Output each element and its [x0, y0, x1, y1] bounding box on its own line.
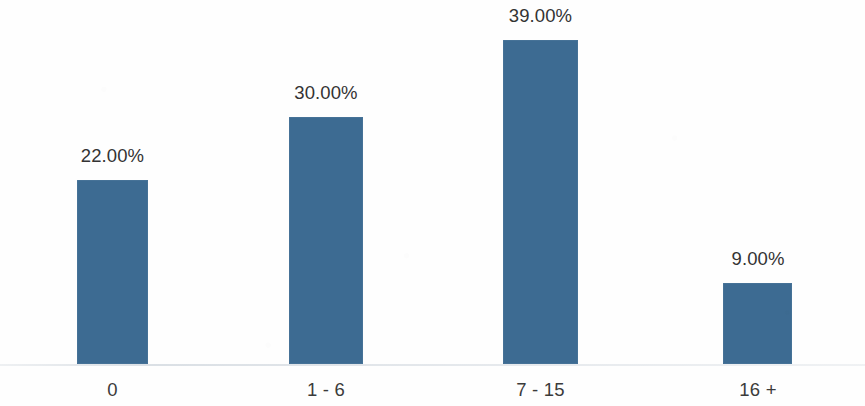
- bar-category-3[interactable]: [723, 283, 792, 364]
- bar-category-2[interactable]: [503, 40, 578, 364]
- bar-category-1[interactable]: [289, 117, 363, 364]
- value-label-0: 22.00%: [62, 147, 163, 166]
- category-label-2: 7 - 15: [489, 381, 592, 400]
- category-label-0: 0: [62, 381, 163, 400]
- value-label-1: 30.00%: [275, 84, 377, 103]
- value-label-2: 39.00%: [489, 7, 592, 26]
- value-label-3: 9.00%: [714, 250, 802, 269]
- bar-chart: 22.00% 0 30.00% 1 - 6 39.00% 7 - 15 9.00…: [0, 0, 865, 406]
- plot-area: 22.00% 0 30.00% 1 - 6 39.00% 7 - 15 9.00…: [0, 0, 865, 406]
- category-label-3: 16 +: [714, 381, 802, 400]
- category-label-1: 1 - 6: [275, 381, 377, 400]
- x-axis-baseline: [0, 364, 865, 366]
- bar-category-0[interactable]: [77, 180, 148, 364]
